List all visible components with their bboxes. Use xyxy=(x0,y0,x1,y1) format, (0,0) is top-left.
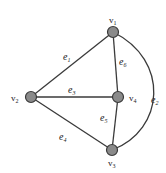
vertex-v3 xyxy=(107,145,118,156)
edge-e5 xyxy=(112,97,118,150)
edge-e4 xyxy=(31,97,112,150)
edge-label-e1: e1 xyxy=(63,51,70,63)
vertex-v2 xyxy=(26,92,37,103)
edge-label-e5: e5 xyxy=(100,112,107,124)
edge-label-e3: e3 xyxy=(68,84,75,96)
edge-e6 xyxy=(113,32,118,97)
edge-label-e4: e4 xyxy=(59,131,66,143)
graph-diagram: v1 v2 v3 v4 e1 e2 e3 e4 e5 e6 xyxy=(0,0,166,173)
edge-label-e6: e6 xyxy=(119,56,126,68)
vertex-v4 xyxy=(113,92,124,103)
vertex-v1 xyxy=(108,27,119,38)
vertex-label-v1: v1 xyxy=(109,15,117,26)
edge-label-e2: e2 xyxy=(151,94,158,106)
vertex-label-v2: v2 xyxy=(11,93,19,104)
vertex-label-v4: v4 xyxy=(129,93,137,104)
vertex-label-v3: v3 xyxy=(108,158,116,169)
